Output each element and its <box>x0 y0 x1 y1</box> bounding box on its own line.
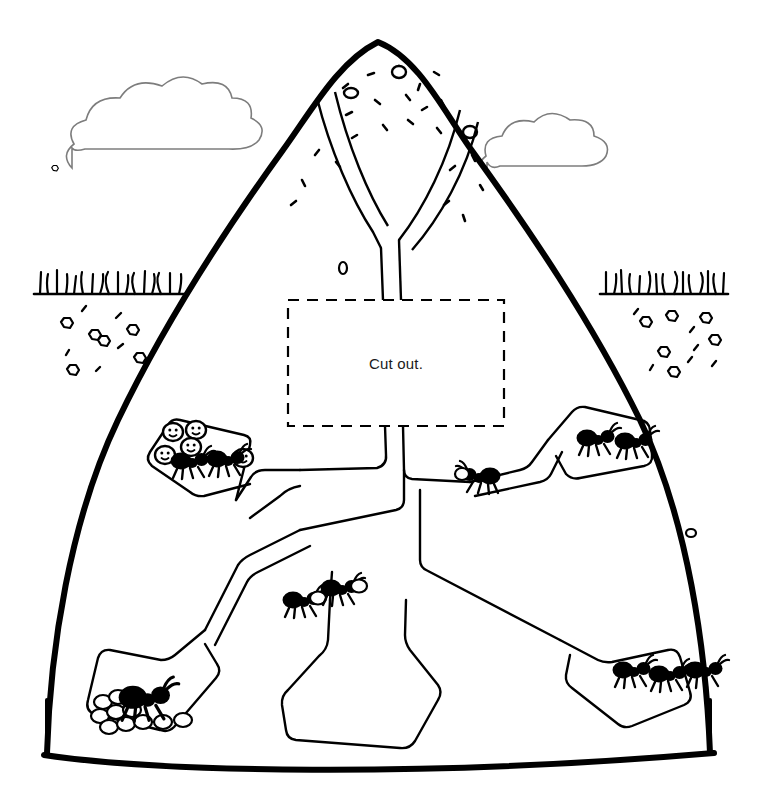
cutout-box-layer <box>0 0 762 792</box>
cutout-label: Cut out. <box>288 355 504 372</box>
worksheet-page: Cut out. <box>0 0 762 792</box>
